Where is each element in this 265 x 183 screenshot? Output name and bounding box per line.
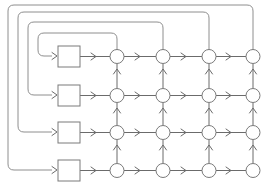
node-group xyxy=(110,50,260,178)
edge-h-r1-c0-c1 xyxy=(124,92,156,99)
edge-square3-node30 xyxy=(80,167,110,174)
node-r2-c0[interactable] xyxy=(110,126,124,140)
edge-v-c2-r1-r0 xyxy=(206,64,213,88)
edge-v-c3-r2-r1 xyxy=(250,103,257,125)
node-r1-c1[interactable] xyxy=(156,89,170,103)
node-r0-c1[interactable] xyxy=(156,50,170,64)
systolic-array-diagram xyxy=(0,0,265,183)
vertical-edges xyxy=(114,64,257,163)
edge-v-c1-r2-r1 xyxy=(160,103,167,125)
edge-h-r1-c1-c2 xyxy=(170,92,202,99)
node-r3-c1[interactable] xyxy=(156,164,170,178)
node-r3-c3[interactable] xyxy=(246,164,260,178)
node-r1-c0[interactable] xyxy=(110,89,124,103)
node-r2-c2[interactable] xyxy=(202,126,216,140)
pe-square-row1[interactable] xyxy=(58,85,80,106)
edge-v-c3-r3-r2 xyxy=(250,140,257,163)
edge-square2-node20 xyxy=(80,129,110,136)
edge-v-c2-r3-r2 xyxy=(206,140,213,163)
node-r3-c2[interactable] xyxy=(202,164,216,178)
diagram-canvas xyxy=(0,0,265,183)
node-r0-c0[interactable] xyxy=(110,50,124,64)
feedback-loop-group xyxy=(8,5,253,174)
pe-square-row3[interactable] xyxy=(58,160,80,181)
edge-h-r0-c2-c3 xyxy=(216,53,246,60)
pe-square-row0[interactable] xyxy=(58,46,80,67)
node-r2-c3[interactable] xyxy=(246,126,260,140)
edge-h-r3-c2-c3 xyxy=(216,167,246,174)
horizontal-edges xyxy=(124,53,246,174)
edge-square0-node00 xyxy=(80,53,110,60)
edge-h-r1-c2-c3 xyxy=(216,92,246,99)
edge-v-c2-r2-r1 xyxy=(206,103,213,125)
edge-h-r2-c1-c2 xyxy=(170,129,202,136)
node-r1-c2[interactable] xyxy=(202,89,216,103)
edge-h-r0-c1-c2 xyxy=(170,53,202,60)
edge-square1-node10 xyxy=(80,92,110,99)
feedback-loop-outermost[interactable] xyxy=(8,5,253,174)
edge-h-r3-c0-c1 xyxy=(124,167,156,174)
edge-h-r0-c0-c1 xyxy=(124,53,156,60)
square-to-node-edges xyxy=(80,53,110,174)
edge-v-c1-r1-r0 xyxy=(160,64,167,88)
node-r2-c1[interactable] xyxy=(156,126,170,140)
pe-square-row2[interactable] xyxy=(58,122,80,143)
edge-v-c0-r2-r1 xyxy=(114,103,121,125)
node-r0-c3[interactable] xyxy=(246,50,260,64)
edge-v-c1-r3-r2 xyxy=(160,140,167,163)
edge-v-c0-r1-r0 xyxy=(114,64,121,88)
edge-v-c0-r3-r2 xyxy=(114,140,121,163)
edge-h-r2-c0-c1 xyxy=(124,129,156,136)
square-group xyxy=(58,46,80,181)
node-r0-c2[interactable] xyxy=(202,50,216,64)
node-r1-c3[interactable] xyxy=(246,89,260,103)
node-r3-c0[interactable] xyxy=(110,164,124,178)
edge-h-r2-c2-c3 xyxy=(216,129,246,136)
edge-v-c3-r1-r0 xyxy=(250,64,257,88)
edge-h-r3-c1-c2 xyxy=(170,167,202,174)
